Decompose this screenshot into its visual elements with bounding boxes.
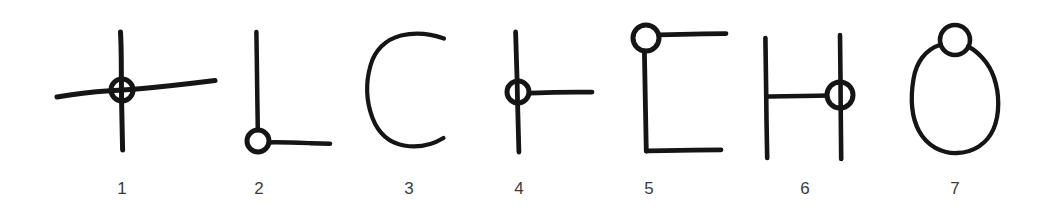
figure-6-crossbar-stroke — [766, 96, 827, 97]
figure-caption-7: 7 — [935, 178, 975, 200]
figure-4-horizontal-stroke — [530, 92, 592, 93]
figure-2-corner-with-circle — [247, 32, 330, 152]
figure-2-horizontal-stroke — [269, 142, 330, 143]
figure-4-tee-with-circle — [507, 32, 592, 152]
figure-7-oval-with-circle — [912, 25, 998, 153]
figure-2-circle-marker — [247, 130, 269, 152]
figure-caption-3: 3 — [389, 178, 429, 200]
figure-1-cross-with-circle — [57, 32, 215, 150]
figure-4-vertical-stroke — [516, 32, 519, 152]
figure-5-bracket-with-circle — [633, 25, 726, 151]
figure-3-open-arc — [367, 34, 444, 147]
figure-panel: 1 2 3 4 5 6 7 — [0, 0, 1060, 221]
figure-5-bottom-stroke — [646, 150, 721, 151]
figure-caption-6: 6 — [785, 178, 825, 200]
figure-5-left-stroke — [644, 51, 646, 151]
figure-5-top-stroke — [659, 34, 726, 35]
figure-3-arc-stroke — [367, 34, 444, 147]
figure-2-vertical-stroke — [256, 32, 257, 130]
figure-caption-4: 4 — [499, 178, 539, 200]
figure-caption-2: 2 — [239, 178, 279, 200]
figure-5-circle-marker — [633, 25, 659, 51]
figure-caption-1: 1 — [102, 178, 142, 200]
figure-6-h-shape-with-circle — [765, 35, 853, 159]
caption-row: 1 2 3 4 5 6 7 — [0, 178, 1060, 208]
figure-6-right-vertical-stroke — [840, 35, 841, 159]
figure-caption-5: 5 — [629, 178, 669, 200]
figure-1-horizontal-stroke — [57, 81, 215, 98]
figure-7-oval-stroke — [912, 45, 998, 154]
figure-7-circle-marker — [940, 25, 970, 55]
